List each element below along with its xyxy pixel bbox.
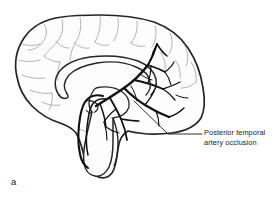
brain-sagittal-diagram bbox=[0, 0, 275, 198]
figure-root: Posterior temporal artery occlusion a bbox=[0, 0, 275, 198]
panel-letter: a bbox=[11, 176, 16, 187]
occlusion-annotation-label: Posterior temporal artery occlusion bbox=[204, 128, 275, 148]
